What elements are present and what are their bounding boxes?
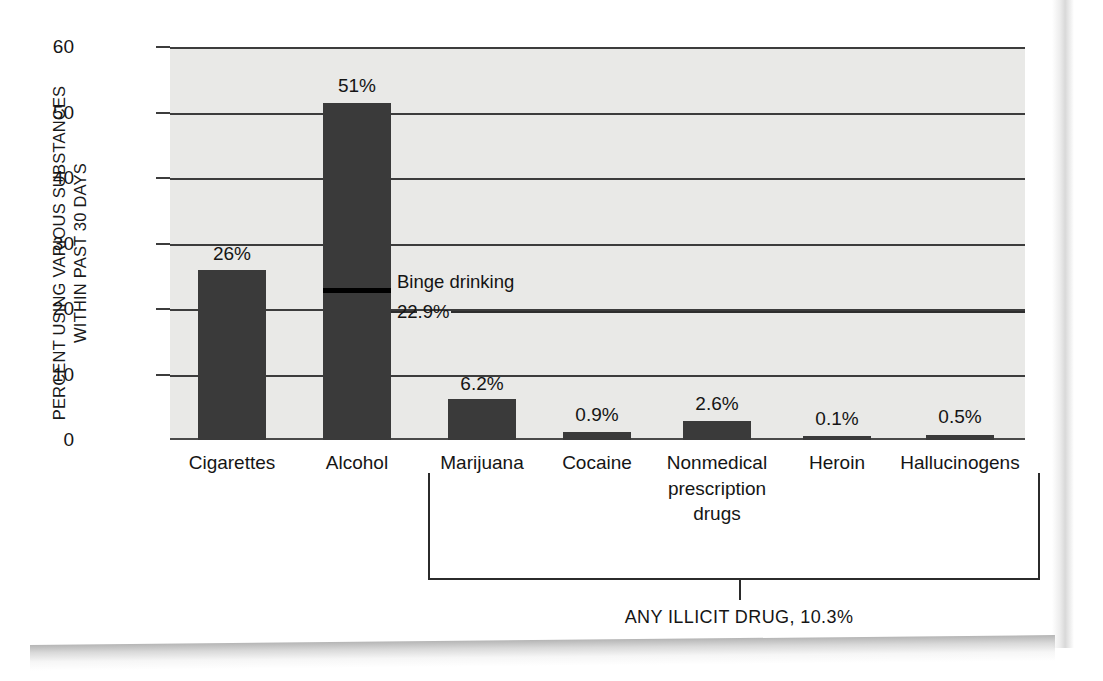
y-tick-mark-10 xyxy=(156,374,170,376)
bracket-right-arm xyxy=(1038,473,1040,579)
x-label-nonmedical-line-1: Nonmedical xyxy=(667,450,767,476)
bar-alcohol[interactable] xyxy=(323,103,391,440)
x-label-cocaine-line-1: Cocaine xyxy=(562,450,632,476)
gridline-30 xyxy=(170,244,1025,246)
x-label-alcohol: Alcohol xyxy=(326,450,388,476)
bracket-label: ANY ILLICIT DRUG, 10.3% xyxy=(625,607,854,628)
gridline-50 xyxy=(170,113,1025,115)
binge-drinking-marker-line xyxy=(323,288,391,293)
y-tick-mark-40 xyxy=(156,177,170,179)
x-label-hallucinogens-line-1: Hallucinogens xyxy=(900,450,1019,476)
bar-value-label-heroin: 0.1% xyxy=(815,408,858,430)
binge-drinking-label-line-1: Binge drinking xyxy=(397,269,514,294)
x-label-nonmedical-line-2: prescription xyxy=(667,476,767,502)
x-label-cocaine: Cocaine xyxy=(562,450,632,476)
y-tick-mark-20 xyxy=(156,308,170,310)
bracket-base-line xyxy=(428,578,1040,580)
y-tick-label-20: 20 xyxy=(14,298,74,320)
bar-hallucinogens[interactable] xyxy=(926,435,994,440)
binge-drinking-reference-line xyxy=(451,311,1025,313)
gridline-10 xyxy=(170,375,1025,377)
bar-cigarettes[interactable] xyxy=(198,270,266,440)
x-label-heroin: Heroin xyxy=(809,450,865,476)
y-tick-mark-50 xyxy=(156,112,170,114)
page-edge-shadow-right xyxy=(1052,0,1074,648)
bar-nonmedical-prescription-drugs[interactable] xyxy=(683,421,751,440)
bar-cocaine[interactable] xyxy=(563,432,631,440)
y-tick-label-30: 30 xyxy=(14,233,74,255)
y-tick-label-50: 50 xyxy=(14,102,74,124)
bar-value-label-marijuana: 6.2% xyxy=(460,373,503,395)
chart-page: PERCENT USING VARIOUS SUBSTANCES WITHIN … xyxy=(0,0,1103,681)
bar-value-label-cocaine: 0.9% xyxy=(575,404,618,426)
y-tick-label-40: 40 xyxy=(14,167,74,189)
x-label-cigarettes: Cigarettes xyxy=(189,450,276,476)
y-tick-label-60: 60 xyxy=(14,36,74,58)
bar-value-label-hallucinogens: 0.5% xyxy=(938,406,981,428)
x-label-heroin-line-1: Heroin xyxy=(809,450,865,476)
bar-value-label-alcohol: 51% xyxy=(338,75,376,97)
gridline-40 xyxy=(170,178,1025,180)
bar-heroin[interactable] xyxy=(803,436,871,440)
y-tick-label-0: 0 xyxy=(14,429,74,451)
bar-value-label-nonmedical-prescription-drugs: 2.6% xyxy=(695,393,738,415)
gridline-60 xyxy=(170,47,1025,49)
page-edge-shadow-bottom xyxy=(30,635,1055,671)
binge-drinking-label-line-2: 22.9% xyxy=(397,299,449,324)
x-label-alcohol-line-1: Alcohol xyxy=(326,450,388,476)
bar-marijuana[interactable] xyxy=(448,399,516,440)
x-label-cigarettes-line-1: Cigarettes xyxy=(189,450,276,476)
y-tick-label-10: 10 xyxy=(14,364,74,386)
plot-area: 26% 51% 6.2% 0.9% 2.6% 0.1% 0.5% Binge d… xyxy=(170,47,1025,440)
x-label-hallucinogens: Hallucinogens xyxy=(900,450,1019,476)
y-tick-mark-60 xyxy=(156,46,170,48)
x-label-nonmedical-line-3: drugs xyxy=(667,501,767,527)
bracket-left-arm xyxy=(428,473,430,579)
bar-value-label-cigarettes: 26% xyxy=(213,243,251,265)
x-label-nonmedical-prescription-drugs: Nonmedical prescription drugs xyxy=(667,450,767,527)
x-label-marijuana: Marijuana xyxy=(440,450,523,476)
bracket-pointer-tick xyxy=(739,578,741,600)
x-label-marijuana-line-1: Marijuana xyxy=(440,450,523,476)
y-tick-mark-30 xyxy=(156,243,170,245)
